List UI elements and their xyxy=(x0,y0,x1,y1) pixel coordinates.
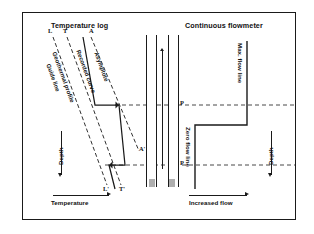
figure-frame: Temperature log Continuous flowmeter L T… xyxy=(22,12,296,220)
max-flow-line-label: Max. flow line xyxy=(237,43,244,83)
flowmeter-trace xyxy=(23,13,297,221)
increased-flow-axis-arrow xyxy=(245,192,249,196)
right-depth-axis-label: Depth xyxy=(267,147,274,165)
increased-flow-axis-label: Increased flow xyxy=(189,199,233,206)
increased-flow-axis-line xyxy=(189,195,247,196)
right-depth-axis-arrow xyxy=(268,173,272,177)
well-log-figure: Temperature log Continuous flowmeter L T… xyxy=(0,0,314,234)
zero-flow-line-label: Zero flow line xyxy=(185,127,192,167)
